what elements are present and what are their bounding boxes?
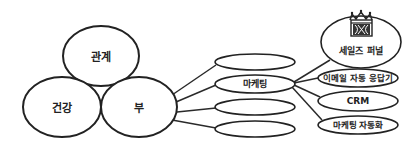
mind-map-diagram: 관계 건강 부 마케팅	[0, 0, 418, 148]
branch-label: 마케팅 자동화	[333, 120, 384, 130]
core-circle-label: 건강	[52, 101, 72, 115]
core-circle-label: 부	[134, 102, 144, 115]
wealth-connectors	[172, 65, 216, 128]
wealth-branch-4[interactable]	[215, 121, 295, 137]
crown-funnel-icon	[350, 10, 372, 36]
marketing-branch-crm[interactable]: CRM	[318, 91, 398, 111]
core-circle-label: 관계	[91, 50, 111, 64]
branch-label: 세일즈 퍼널	[339, 45, 382, 56]
core-circle-relationship[interactable]: 관계	[63, 26, 139, 86]
core-circle-wealth[interactable]: 부	[101, 77, 177, 137]
wealth-branch-marketing[interactable]: 마케팅	[215, 75, 295, 93]
branch-label: CRM	[347, 96, 370, 106]
marketing-branch-marketing-automation[interactable]: 마케팅 자동화	[318, 116, 398, 134]
marketing-connectors	[292, 60, 330, 120]
wealth-branch-3[interactable]	[215, 99, 295, 115]
marketing-branch-email-autoresponder[interactable]: 이메일 자동 응답기	[318, 69, 398, 87]
core-circle-health[interactable]: 건강	[23, 77, 101, 137]
branch-label: 이메일 자동 응답기	[323, 73, 393, 83]
branch-label: 마케팅	[243, 78, 267, 89]
marketing-branch-sales-funnel[interactable]: 세일즈 퍼널	[321, 10, 401, 68]
wealth-branch-1[interactable]	[215, 54, 295, 70]
